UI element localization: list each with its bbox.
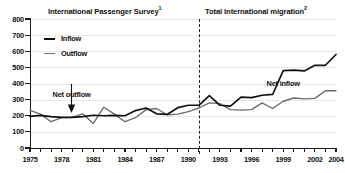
legend-swatch-outflow	[44, 53, 55, 54]
legend-swatch-inflow	[44, 38, 55, 40]
legend-label-inflow: Inflow	[61, 34, 81, 43]
annotation-net-outflow: Net outflow	[53, 90, 91, 99]
annotation-net-inflow: Net inflow	[267, 79, 300, 88]
chart-container: International Passenger Survey1 Total In…	[0, 0, 345, 173]
legend-label-outflow: Outflow	[61, 49, 87, 58]
